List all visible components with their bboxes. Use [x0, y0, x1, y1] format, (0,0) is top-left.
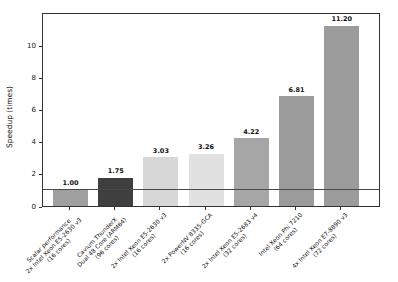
- bar: [324, 26, 359, 206]
- bar: [98, 178, 133, 206]
- bar: [143, 157, 178, 206]
- x-tick-mark: [114, 207, 115, 210]
- y-tick-label: 6: [0, 106, 36, 114]
- x-tick-mark: [250, 207, 251, 210]
- bar-value-label: 1.75: [108, 167, 124, 175]
- y-tick-mark: [39, 174, 42, 175]
- y-tick-label: 10: [0, 42, 36, 50]
- bar-value-label: 6.81: [288, 86, 304, 94]
- bar-value-label: 4.22: [243, 128, 259, 136]
- bar-value-label: 3.26: [198, 143, 214, 151]
- bar-value-label: 1.00: [62, 179, 78, 187]
- plot-area: 1.001.753.033.264.226.8111.20: [42, 13, 380, 207]
- bar: [234, 138, 269, 206]
- y-tick-label: 0: [0, 203, 36, 211]
- x-tick-mark: [159, 207, 160, 210]
- x-tick-mark: [340, 207, 341, 210]
- y-tick-mark: [39, 110, 42, 111]
- reference-line: [43, 189, 379, 190]
- bar-value-label: 3.03: [153, 147, 169, 155]
- x-tick-label-line: Intel Xeon Phi 7210: [257, 211, 303, 257]
- bar: [53, 190, 88, 206]
- x-tick-mark: [69, 207, 70, 210]
- x-tick-label-line: 2x Intel Xeon E5-2630 v3: [24, 216, 82, 274]
- x-tick-mark: [295, 207, 296, 210]
- y-tick-label: 2: [0, 170, 36, 178]
- y-tick-mark: [39, 142, 42, 143]
- y-tick-mark: [39, 78, 42, 79]
- y-tick-label: 8: [0, 74, 36, 82]
- bar-chart-figure: Speedup (times) 1.001.753.033.264.226.81…: [0, 0, 398, 282]
- y-tick-label: 4: [0, 138, 36, 146]
- x-tick-label: Scalar performance2x Intel Xeon E5-2630 …: [19, 211, 87, 279]
- x-tick-mark: [205, 207, 206, 210]
- y-tick-mark: [39, 46, 42, 47]
- bar: [189, 154, 224, 206]
- bar-value-label: 11.20: [331, 15, 352, 23]
- y-tick-mark: [39, 207, 42, 208]
